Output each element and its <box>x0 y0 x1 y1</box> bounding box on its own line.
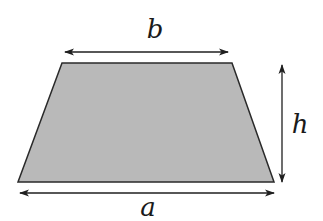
trapezoid-figure: b h a <box>0 0 323 221</box>
label-b: b <box>147 14 164 44</box>
trapezoid-shape <box>18 63 274 182</box>
label-a: a <box>140 192 156 221</box>
label-h: h <box>292 109 309 139</box>
trapezoid-diagram: b h a <box>0 0 323 221</box>
